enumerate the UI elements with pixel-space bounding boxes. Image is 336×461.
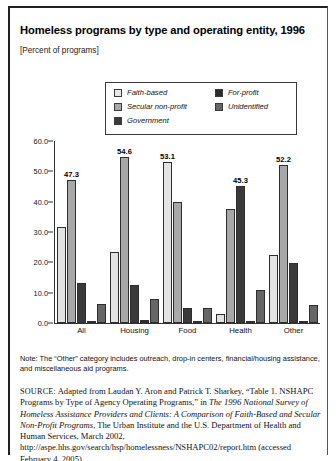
legend-item-faith-based: Faith-based: [114, 88, 187, 97]
bar[interactable]: [309, 305, 318, 323]
y-axis-tick-mark: [48, 141, 53, 142]
x-axis-label: Housing: [120, 326, 149, 335]
y-axis-tick-mark: [48, 262, 53, 263]
legend-item-secular-non-profit: Secular non-profit: [114, 102, 187, 111]
x-axis-labels: AllHousingFoodHealthOther: [55, 326, 320, 342]
bar[interactable]: [173, 202, 182, 323]
bar-value-label: 47.3: [64, 170, 79, 179]
legend-label: Unidentified: [228, 102, 268, 111]
chart-legend: Faith-based Secular non-profit Governmen…: [105, 82, 297, 135]
legend-swatch-icon: [215, 89, 223, 97]
y-axis-tick-label: 0.0: [38, 319, 48, 328]
bar-group: 53.1: [161, 141, 214, 323]
legend-swatch-icon: [114, 117, 122, 125]
bar[interactable]: [203, 308, 212, 323]
legend-swatch-icon: [215, 103, 223, 111]
y-axis-tick-mark: [48, 201, 53, 202]
bar-value-label: 45.3: [233, 176, 248, 185]
plot-area: 47.354.653.145.352.2: [55, 141, 320, 323]
legend-label: Government: [127, 116, 169, 125]
x-axis-label: Other: [284, 326, 304, 335]
bar[interactable]: 52.2: [279, 165, 288, 323]
y-axis-tick-label: 50.0: [34, 167, 48, 176]
page-title: Homeless programs by type and operating …: [20, 24, 305, 36]
bar[interactable]: [150, 299, 159, 323]
bar[interactable]: [256, 290, 265, 323]
legend-column-left: Faith-based Secular non-profit Governmen…: [114, 88, 187, 134]
bar[interactable]: [269, 255, 278, 323]
x-axis-label: Food: [179, 326, 197, 335]
bar[interactable]: [57, 227, 66, 323]
legend-label: Secular non-profit: [127, 102, 187, 111]
y-axis-tick-mark: [48, 323, 53, 324]
legend-column-right: For-profit Unidentified: [215, 88, 268, 134]
bar[interactable]: [110, 252, 119, 323]
source-label: SOURCE:: [20, 387, 56, 396]
bar-value-label: 52.2: [276, 155, 291, 164]
bar[interactable]: 47.3: [67, 180, 76, 323]
legend-label: Faith-based: [127, 88, 167, 97]
figure-subtitle: [Percent of programs]: [20, 46, 99, 55]
bar-value-label: 54.6: [117, 147, 132, 156]
bar-value-label: 53.1: [160, 152, 175, 161]
legend-label: For-profit: [228, 88, 259, 97]
legend-item-for-profit: For-profit: [215, 88, 268, 97]
chart-source: SOURCE: Adapted from Laudan Y. Aron and …: [20, 386, 322, 461]
bar[interactable]: 45.3: [236, 186, 245, 323]
x-axis-label: Health: [229, 326, 252, 335]
bar-group: 47.3: [55, 141, 108, 323]
bar[interactable]: [183, 308, 192, 323]
x-axis-line: [54, 323, 320, 324]
bar-chart: 0.010.020.030.040.050.060.0 47.354.653.1…: [20, 141, 320, 341]
bar[interactable]: 54.6: [120, 157, 129, 323]
bar[interactable]: [226, 209, 235, 323]
bar-group: 45.3: [214, 141, 267, 323]
figure-panel: Homeless programs by type and operating …: [8, 6, 328, 455]
y-axis-tick-mark: [48, 171, 53, 172]
legend-item-unidentified: Unidentified: [215, 102, 268, 111]
y-axis-tick-label: 10.0: [34, 288, 48, 297]
y-axis-tick-mark: [48, 232, 53, 233]
bar[interactable]: [289, 263, 298, 323]
bar[interactable]: [246, 321, 255, 323]
bar[interactable]: [140, 320, 149, 323]
bar[interactable]: [77, 283, 86, 323]
legend-swatch-icon: [114, 103, 122, 111]
bar[interactable]: [97, 304, 106, 323]
legend-item-government: Government: [114, 116, 187, 125]
bar[interactable]: [299, 321, 308, 323]
legend-swatch-icon: [114, 89, 122, 97]
y-axis: 0.010.020.030.040.050.060.0: [20, 141, 54, 323]
y-axis-tick-label: 20.0: [34, 258, 48, 267]
bar[interactable]: [130, 285, 139, 323]
y-axis-tick-label: 40.0: [34, 197, 48, 206]
bar[interactable]: [193, 321, 202, 323]
y-axis-tick-label: 30.0: [34, 228, 48, 237]
bar[interactable]: [216, 314, 225, 323]
y-axis-tick-mark: [48, 292, 53, 293]
bar[interactable]: 53.1: [163, 162, 172, 323]
bar[interactable]: [87, 321, 96, 323]
bar-group: 52.2: [267, 141, 320, 323]
x-axis-label: All: [77, 326, 86, 335]
y-axis-tick-label: 60.0: [34, 137, 48, 146]
chart-note: Note: The “Other” category includes outr…: [20, 354, 320, 374]
bar-group: 54.6: [108, 141, 161, 323]
